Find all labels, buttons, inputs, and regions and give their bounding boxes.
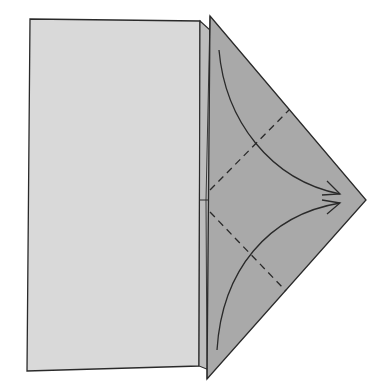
diagram-canvas [0,0,387,383]
triangle-flap [207,16,366,379]
origami-diagram [0,0,387,383]
paper-rectangle [27,19,200,371]
